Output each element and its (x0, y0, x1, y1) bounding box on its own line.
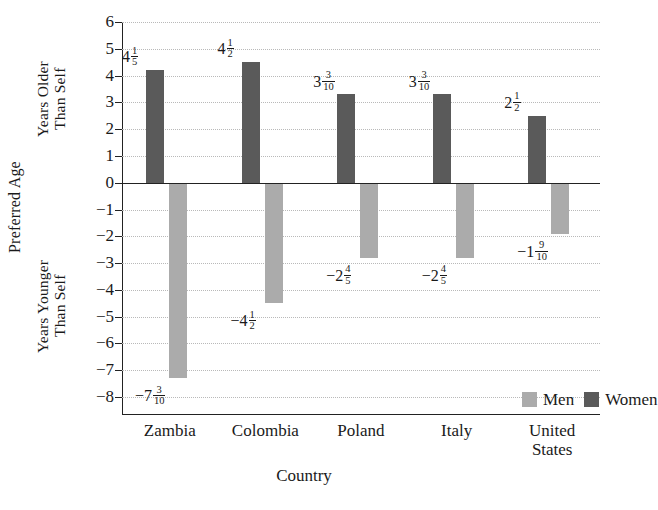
bar-men-zambia (169, 183, 187, 379)
y-axis-tick (115, 76, 122, 77)
value-label-men: −412 (231, 310, 256, 332)
y-axis-tick-label: 0 (78, 174, 114, 191)
legend-label-women: Women (605, 391, 657, 408)
value-label-men: −245 (422, 265, 447, 287)
value-label-text: −245 (422, 265, 447, 287)
y-axis-tick-label: −2 (78, 227, 114, 244)
y-axis-tick (115, 343, 122, 344)
bar-women-zambia (146, 70, 164, 183)
y-axis-tick-label: 1 (78, 147, 114, 164)
value-label-text: 412 (218, 38, 234, 60)
y-axis-tick (115, 102, 122, 103)
value-label-text: 212 (504, 92, 520, 114)
x-label-zambia: Zambia (122, 422, 218, 441)
legend-swatch-men-icon (522, 392, 537, 407)
y-axis-lower-title: Years Younger Than Self (34, 206, 69, 406)
zero-line (122, 183, 600, 184)
legend-label-men: Men (543, 391, 574, 408)
x-axis-line (122, 414, 600, 415)
value-label-women: 412 (218, 38, 234, 60)
value-label-men: −7310 (135, 385, 166, 407)
bar-men-italy (456, 183, 474, 258)
y-axis-tick-label: −3 (78, 254, 114, 271)
y-axis-tick-label: 2 (78, 120, 114, 137)
value-label-men: −1910 (517, 241, 548, 263)
legend-item-men[interactable]: Men (522, 391, 574, 408)
y-axis-tick-label: 3 (78, 93, 114, 110)
y-axis-tick-label: −5 (78, 308, 114, 325)
x-label-colombia: Colombia (218, 422, 314, 441)
legend-item-women[interactable]: Women (584, 391, 657, 408)
value-label-text: −7310 (135, 385, 166, 407)
y-axis-tick (115, 49, 122, 50)
y-axis-tick (115, 397, 122, 398)
plot-area: 415−7310412−4123310−2453310−245212−1910 … (122, 22, 600, 415)
y-axis-tick-label: −6 (78, 334, 114, 351)
y-axis-line (122, 22, 123, 415)
gridline (122, 102, 600, 103)
legend: Men Women (522, 391, 658, 408)
bar-women-colombia (242, 62, 260, 183)
y-axis-upper-title: Years Older Than Self (34, 18, 69, 180)
y-axis-tick (115, 236, 122, 237)
bar-women-italy (433, 94, 451, 182)
y-axis-tick (115, 263, 122, 264)
gridline (122, 49, 600, 50)
value-label-text: −1910 (517, 241, 548, 263)
value-label-women: 415 (122, 46, 138, 68)
y-axis-tick-label: −1 (78, 201, 114, 218)
value-label-text: 3310 (409, 70, 431, 92)
x-label-poland: Poland (313, 422, 409, 441)
x-label-italy: Italy (409, 422, 505, 441)
gridline (122, 263, 600, 264)
y-axis-tick-label: 6 (78, 13, 114, 30)
y-axis-tick (115, 370, 122, 371)
gridline (122, 22, 600, 23)
bar-men-united-states (551, 183, 569, 234)
value-label-text: −412 (231, 310, 256, 332)
gridline (122, 343, 600, 344)
value-label-text: 3310 (313, 70, 335, 92)
value-label-women: 212 (504, 92, 520, 114)
value-label-text: 415 (122, 46, 138, 68)
y-axis-tick (115, 183, 122, 184)
y-axis-tick-label: −7 (78, 361, 114, 378)
gridline (122, 317, 600, 318)
y-axis-tick (115, 129, 122, 130)
gridline (122, 76, 600, 77)
bar-women-poland (337, 94, 355, 182)
y-axis-tick-label: −4 (78, 281, 114, 298)
legend-swatch-women-icon (584, 392, 599, 407)
y-axis-tick-label: 5 (78, 40, 114, 57)
y-axis-tick-label: −8 (78, 388, 114, 405)
bar-men-poland (360, 183, 378, 258)
y-axis-tick (115, 156, 122, 157)
y-axis-tick (115, 317, 122, 318)
y-axis-tick (115, 210, 122, 211)
value-label-men: −245 (326, 265, 351, 287)
value-label-women: 3310 (409, 70, 431, 92)
bar-women-united-states (528, 116, 546, 183)
value-label-text: −245 (326, 265, 351, 287)
y-axis-tick-label: 4 (78, 67, 114, 84)
gridline (122, 290, 600, 291)
y-axis-outer-title: Preferred Age (6, 92, 24, 322)
x-label-united-states: United States (504, 422, 600, 459)
value-label-women: 3310 (313, 70, 335, 92)
y-axis-tick (115, 290, 122, 291)
x-axis-title: Country (0, 466, 608, 486)
y-axis-tick (115, 22, 122, 23)
bar-men-colombia (265, 183, 283, 304)
gridline (122, 370, 600, 371)
